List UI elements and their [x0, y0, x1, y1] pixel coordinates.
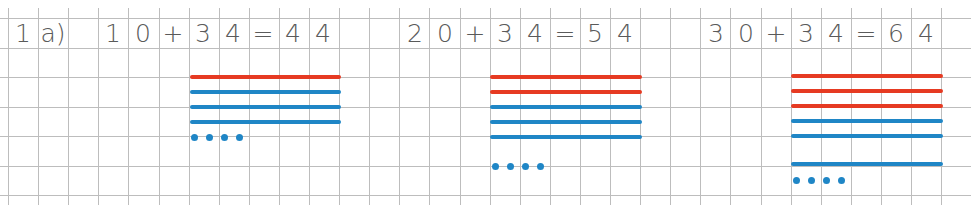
ones-dot — [838, 177, 845, 184]
grid-hline — [0, 195, 971, 196]
eq2-b-ones: 4 — [520, 19, 550, 49]
eq1-b-ones: 4 — [218, 19, 248, 49]
ones-dot — [221, 134, 228, 141]
ones-dot — [206, 134, 213, 141]
grid-hline — [0, 166, 971, 167]
eq3-b-tens: 3 — [791, 19, 821, 49]
eq3-plus: + — [761, 19, 791, 49]
eq1-equals: = — [248, 19, 278, 49]
tens-bar-blue — [190, 90, 341, 94]
tens-bar-blue — [490, 120, 642, 124]
ones-dot — [492, 163, 499, 170]
ones-dot — [823, 177, 830, 184]
exercise-part: a) — [38, 19, 68, 49]
tens-bar-red — [490, 75, 642, 79]
eq2-a-tens: 2 — [400, 19, 430, 49]
tens-bar-blue — [190, 120, 341, 124]
tens-bar-blue — [791, 162, 943, 166]
tens-bar-blue — [791, 134, 943, 138]
exercise-number: 1 — [8, 19, 38, 49]
eq2-res-tens: 5 — [580, 19, 610, 49]
eq1-a-ones: 0 — [128, 19, 158, 49]
ones-dot — [522, 163, 529, 170]
eq1-res-ones: 4 — [308, 19, 338, 49]
eq3-b-ones: 4 — [821, 19, 851, 49]
eq1-plus: + — [158, 19, 188, 49]
eq2-plus: + — [460, 19, 490, 49]
tens-bar-blue — [490, 105, 642, 109]
tens-bar-red — [791, 104, 943, 108]
ones-dot — [191, 134, 198, 141]
eq1-b-tens: 3 — [188, 19, 218, 49]
eq1-res-tens: 4 — [278, 19, 308, 49]
eq1-a-tens: 1 — [98, 19, 128, 49]
tens-bar-red — [490, 90, 642, 94]
tens-bar-red — [791, 74, 943, 78]
ones-dot — [507, 163, 514, 170]
grid-worksheet: 1 a) 1 0 + 3 4 = 4 4 2 0 + 3 4 = 5 4 3 0… — [0, 0, 971, 205]
eq2-res-ones: 4 — [610, 19, 640, 49]
eq3-res-ones: 4 — [911, 19, 941, 49]
eq3-a-ones: 0 — [731, 19, 761, 49]
ones-dot — [793, 177, 800, 184]
tens-bar-red — [190, 75, 341, 79]
eq2-b-tens: 3 — [490, 19, 520, 49]
eq2-equals: = — [550, 19, 580, 49]
tens-bar-blue — [791, 119, 943, 123]
eq2-a-ones: 0 — [430, 19, 460, 49]
eq3-a-tens: 3 — [701, 19, 731, 49]
tens-bar-blue — [490, 135, 642, 139]
ones-dot — [236, 134, 243, 141]
eq3-res-tens: 6 — [881, 19, 911, 49]
ones-dot — [808, 177, 815, 184]
tens-bar-blue — [190, 105, 341, 109]
eq3-equals: = — [851, 19, 881, 49]
tens-bar-red — [791, 89, 943, 93]
ones-dot — [537, 163, 544, 170]
